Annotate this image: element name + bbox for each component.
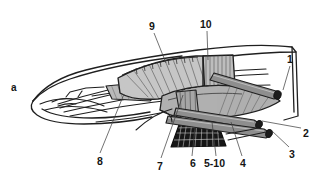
figure-container: a 91012345-10678: [0, 0, 326, 187]
leader-line-1: [283, 66, 290, 90]
callout-label-3: 3: [289, 149, 295, 160]
callout-label-10: 10: [200, 19, 212, 30]
callout-label-1: 1: [287, 54, 293, 65]
leader-line-2: [262, 121, 301, 128]
callout-label-2: 2: [303, 128, 309, 139]
callout-label-6: 6: [190, 158, 196, 169]
panel-label-a: a: [11, 83, 17, 93]
callout-label-5-10: 5-10: [204, 158, 225, 169]
callout-label-4: 4: [240, 158, 246, 169]
callout-label-8: 8: [97, 156, 103, 167]
callout-label-9: 9: [149, 21, 155, 32]
anatomical-diagram: [0, 0, 326, 187]
callout-label-7: 7: [157, 161, 163, 172]
leader-line-3: [272, 131, 289, 147]
